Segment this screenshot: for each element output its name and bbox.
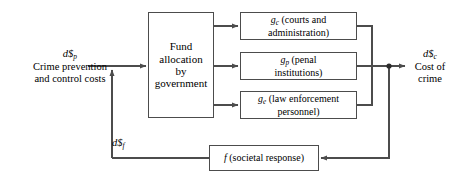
label-input-line2: and control costs (10, 73, 130, 85)
symbol-d-dollar-f: d$f (112, 137, 146, 150)
label-output-line1: Cost of (404, 61, 456, 73)
node-enforcement-desc-line1: (law enforcement (269, 93, 339, 104)
node-law-enforcement[interactable]: ge (law enforcement personnel) (240, 91, 357, 119)
label-output-line2: crime (404, 73, 456, 85)
node-fund-allocation-label: Fund allocation by government (152, 40, 211, 89)
label-input-line1: Crime prevention (10, 61, 130, 73)
node-penal-desc-line2: institutions) (275, 67, 323, 78)
node-courts-desc-line2: administration) (268, 27, 329, 38)
node-societal-response[interactable]: f (societal response) (209, 145, 319, 171)
node-fund-allocation[interactable]: Fund allocation by government (148, 12, 214, 118)
symbol-f: f (224, 152, 227, 163)
wire-gc-to-junction (357, 26, 372, 66)
node-societal-label: f (societal response) (221, 152, 307, 163)
node-courts-administration[interactable]: gc (courts and administration) (240, 12, 357, 40)
node-penal-institutions[interactable]: gp (penal institutions) (240, 52, 357, 80)
summing-junction-dot (386, 63, 391, 68)
node-penal-desc-line1: (penal (292, 54, 317, 65)
node-enforcement-desc-line2: personnel) (258, 106, 339, 117)
symbol-g-e: ge (258, 93, 266, 104)
node-courts-label: gc (courts and administration) (265, 14, 332, 38)
node-societal-desc: (societal response) (229, 152, 304, 163)
block-diagram: Fund allocation by government gc (courts… (0, 0, 459, 188)
node-enforcement-label: ge (law enforcement personnel) (255, 93, 342, 117)
label-input-crime-prevention: d$p Crime prevention and control costs (10, 48, 130, 85)
node-penal-label: gp (penal institutions) (272, 54, 326, 78)
wire-ge-to-junction (357, 66, 372, 105)
symbol-d-dollar-c: d$c (404, 48, 456, 61)
symbol-g-p: gp (280, 54, 289, 65)
symbol-g-c: gc (271, 14, 279, 25)
label-output-cost-of-crime: d$c Cost of crime (404, 48, 456, 85)
node-courts-desc-line1: (courts and (281, 14, 326, 25)
symbol-d-dollar-p: d$p (10, 48, 130, 61)
label-feedback-d-dollar-f: d$f (112, 137, 146, 150)
